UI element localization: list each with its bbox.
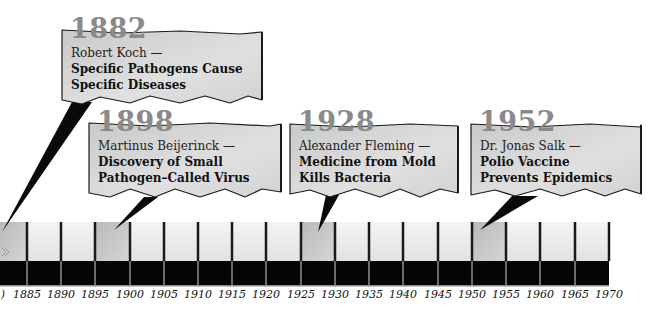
tick-label: 1895 [81, 288, 109, 301]
tick-label: 1965 [561, 288, 589, 301]
event-year: 1898 [97, 107, 174, 137]
event-person: Alexander Fleming — [299, 139, 430, 154]
event-year: 1882 [70, 14, 147, 44]
tick-label: 1935 [355, 288, 383, 301]
event-title-line-1: Discovery of Small [98, 155, 223, 171]
tick-label: 1890 [47, 288, 75, 301]
event-title-line-2: Prevents Epidemics [480, 171, 612, 187]
event-year: 1928 [298, 107, 375, 137]
event-callout-1898: 1898 Martinus Beijerinck — Discovery of … [89, 113, 281, 197]
tick-label: 1885 [13, 288, 41, 301]
event-title-line-2: Specific Diseases [71, 78, 186, 94]
event-title-line-1: Specific Pathogens Cause [71, 62, 243, 78]
tick-label: 1925 [287, 288, 315, 301]
event-title-line-1: Medicine from Mold [299, 155, 436, 171]
timeline-light-band [0, 222, 609, 261]
event-year: 1952 [479, 107, 556, 137]
tick-label: 1900 [116, 288, 144, 301]
tick-label: 1960 [526, 288, 554, 301]
tick-label-partial: ) [1, 288, 5, 301]
pointer-1882 [2, 102, 92, 232]
tick-label: 1970 [595, 288, 623, 301]
event-person: Martinus Beijerinck — [98, 139, 235, 154]
event-title-line-2: Pathogen–Called Virus [98, 171, 250, 187]
tick-label: 1950 [458, 288, 486, 301]
event-person: Robert Koch — [71, 46, 163, 61]
event-callout-1928: 1928 Alexander Fleming — Medicine from M… [290, 113, 458, 197]
tick-label: 1915 [218, 288, 246, 301]
tick-label: 1930 [321, 288, 349, 301]
tick-label: 1940 [389, 288, 417, 301]
event-title-line-1: Polio Vaccine [480, 155, 570, 171]
timeline-dark-band [0, 261, 609, 285]
tick-label: 1920 [252, 288, 280, 301]
event-title-line-2: Kills Bacteria [299, 171, 391, 187]
event-person: Dr. Jonas Salk — [480, 139, 581, 154]
event-callout-1882: 1882 Robert Koch — Specific Pathogens Ca… [62, 20, 262, 104]
event-callout-1952: 1952 Dr. Jonas Salk — Polio Vaccine Prev… [471, 113, 641, 197]
tick-label: 1945 [424, 288, 452, 301]
tick-label: 1955 [492, 288, 520, 301]
tick-label: 1905 [150, 288, 178, 301]
tick-label: 1910 [184, 288, 212, 301]
